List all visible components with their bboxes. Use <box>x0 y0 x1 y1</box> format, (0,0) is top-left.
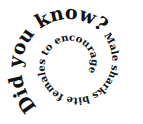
spiral-text-graphic: Did you know? Male sharks bite females t… <box>0 0 143 124</box>
spiral-text: Did you know? Male sharks bite females t… <box>0 0 121 118</box>
